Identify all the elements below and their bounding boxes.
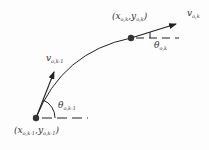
label-point-current: (xo,k,yo,k) [112, 11, 147, 22]
velocity-arrow-previous [36, 72, 54, 118]
trajectory-diagram: (xo,k,yo,k) vo,k θo,k vo,k-1 θo,k-1 (xo,… [0, 0, 209, 150]
label-point-previous: (xo,k-1,yo,k-1) [14, 125, 59, 136]
point-current [128, 35, 134, 41]
trajectory-curve [36, 38, 131, 118]
velocity-arrow-current [131, 24, 176, 38]
point-previous [33, 115, 39, 121]
angle-arc-previous [43, 100, 55, 118]
label-velocity-previous: vo,k-1 [46, 53, 64, 64]
label-angle-current: θo,k [154, 40, 167, 51]
label-velocity-current: vo,k [187, 8, 200, 19]
label-angle-previous: θo,k-1 [58, 100, 76, 111]
